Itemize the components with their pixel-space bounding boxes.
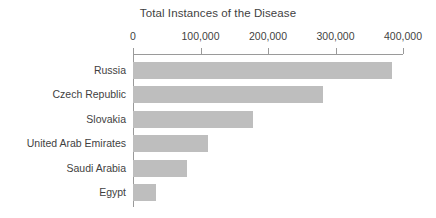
bar (133, 111, 253, 128)
x-axis-tick-label: 300,000 (317, 30, 355, 42)
bar (133, 135, 208, 152)
bar (133, 86, 323, 103)
x-axis-tick-label: 100,000 (182, 30, 220, 42)
x-axis-tick (201, 48, 202, 54)
bar-chart: Total Instances of the Disease 0100,0002… (0, 0, 436, 218)
category-label: Slovakia (0, 111, 126, 128)
bar (133, 184, 156, 201)
category-label: United Arab Emirates (0, 135, 126, 152)
category-label: Czech Republic (0, 86, 126, 103)
chart-title: Total Instances of the Disease (0, 7, 436, 19)
x-axis-tick-label: 0 (130, 30, 136, 42)
category-label: Saudi Arabia (0, 160, 126, 177)
category-label: Russia (0, 62, 126, 79)
bar (133, 160, 187, 177)
x-axis (133, 48, 403, 55)
x-axis-tick-label: 200,000 (249, 30, 287, 42)
x-axis-tick (268, 48, 269, 54)
x-axis-tick (403, 48, 404, 54)
x-axis-tick-label: 400,000 (384, 30, 422, 42)
x-axis-line (133, 54, 403, 55)
bar (133, 62, 392, 79)
category-label: Egypt (0, 184, 126, 201)
x-axis-tick (336, 48, 337, 54)
